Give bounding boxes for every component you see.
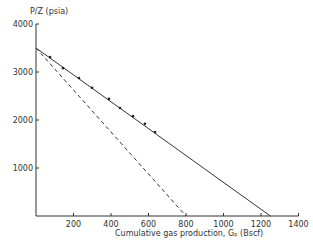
y-tick-label: 3000 — [13, 68, 33, 77]
data-point — [119, 107, 122, 110]
x-tick-label: 1200 — [251, 220, 271, 229]
data-point — [62, 67, 65, 70]
data-point — [144, 123, 147, 126]
data-point — [108, 98, 111, 101]
y-tick-label: 4000 — [13, 20, 33, 29]
pz-plot: 1000200030004000200400600800100012001400… — [0, 0, 313, 247]
data-points — [49, 56, 157, 133]
dashed-line — [36, 48, 186, 216]
tick-labels: 1000200030004000200400600800100012001400 — [13, 20, 309, 229]
x-tick-label: 600 — [141, 220, 156, 229]
y-axis-title: P/Z (psia) — [30, 7, 68, 16]
y-tick-label: 2000 — [13, 116, 33, 125]
x-tick-label: 1000 — [213, 220, 233, 229]
x-tick-label: 200 — [66, 220, 81, 229]
x-axis-title: Cumulative gas production, Gₚ (Bscf) — [115, 229, 263, 238]
data-point — [49, 56, 52, 59]
solid-fit-line — [36, 48, 270, 216]
data-point — [78, 77, 81, 80]
x-tick-label: 800 — [178, 220, 193, 229]
plot-lines — [36, 48, 270, 216]
data-point — [154, 131, 157, 134]
x-tick-label: 1400 — [288, 220, 308, 229]
y-tick-label: 1000 — [13, 164, 33, 173]
x-tick-label: 400 — [103, 220, 118, 229]
data-point — [132, 115, 135, 118]
axes — [36, 24, 299, 216]
data-point — [91, 87, 94, 90]
